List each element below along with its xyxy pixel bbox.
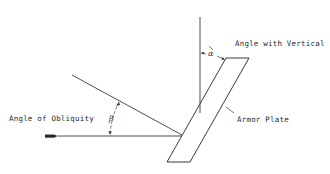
beta-symbol: β xyxy=(109,114,114,123)
projectile-icon xyxy=(45,135,58,138)
obliquity-diagram xyxy=(0,0,330,174)
armor-plate-label: Armor Plate xyxy=(237,115,289,124)
armor-plate-leader xyxy=(226,107,234,113)
angle-with-vertical-label: Angle with Vertical xyxy=(235,39,325,48)
alpha-symbol: α xyxy=(208,49,213,58)
armor-plate-shape xyxy=(167,58,249,162)
plate-normal-line xyxy=(72,75,182,135)
angle-of-obliquity-label: Angle of Obliquity xyxy=(9,114,94,123)
